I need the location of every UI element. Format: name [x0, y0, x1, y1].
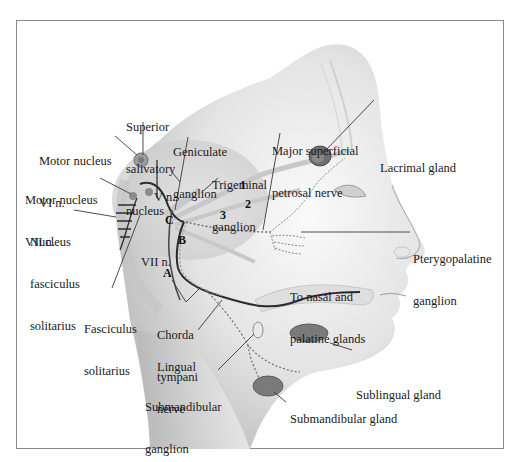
label-line: Motor nucleus: [25, 193, 98, 207]
label-fasciculus-solitarius: Fasciculus solitarius: [84, 294, 137, 392]
label-line: solitarius: [84, 364, 137, 378]
label-submandibular-ganglion: Submandibular ganglion: [145, 372, 221, 462]
label-nucleus-fasciculus-solitarius: Nucleus fasciculus solitarius: [30, 207, 80, 347]
marker-a: A: [163, 266, 172, 281]
marker-c: C: [165, 213, 174, 228]
marker-3: 3: [220, 208, 226, 223]
label-line: Lacrimal gland: [380, 161, 456, 175]
label-line: V n.: [154, 190, 175, 204]
label-to-nasal-palatine-glands: To nasal and palatine glands: [290, 262, 365, 360]
marker-1: 1: [240, 178, 246, 193]
label-lacrimal-gland: Lacrimal gland: [380, 133, 456, 189]
label-line: fasciculus: [30, 277, 80, 291]
label-line: petrosal nerve: [272, 186, 358, 200]
label-line: To nasal and: [290, 290, 365, 304]
label-line: ganglion: [413, 294, 491, 308]
label-submandibular-gland: Submandibular gland: [290, 384, 397, 440]
label-line: Superior: [126, 120, 175, 134]
label-line: Fasciculus: [84, 322, 137, 336]
label-line: Major superficial: [272, 144, 358, 158]
label-v-n: V n.: [154, 162, 175, 218]
label-line: palatine glands: [290, 332, 365, 346]
marker-b: B: [178, 233, 186, 248]
label-line: ganglion: [145, 442, 221, 456]
label-pterygopalatine-ganglion: Pterygopalatine ganglion: [413, 224, 491, 322]
label-major-superficial-petrosal-nerve: Major superficial petrosal nerve: [272, 116, 358, 214]
label-line: Submandibular: [145, 400, 221, 414]
label-line: Nucleus: [30, 235, 80, 249]
marker-2: 2: [245, 197, 251, 212]
label-line: solitarius: [30, 319, 80, 333]
label-line: Pterygopalatine: [413, 252, 491, 266]
label-line: Submandibular gland: [290, 412, 397, 426]
label-trigeminal-ganglion: Trigeminal ganglion: [212, 150, 267, 248]
